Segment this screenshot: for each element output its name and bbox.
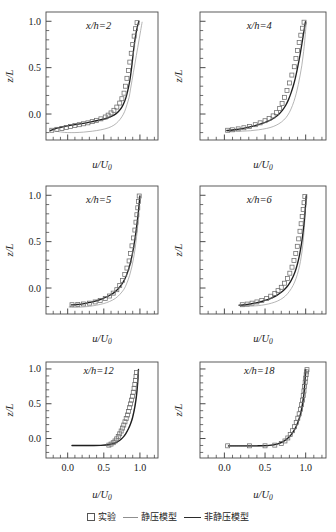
y-tick-label: 0.5 (29, 236, 42, 247)
legend-label-experiment: 实验 (98, 513, 116, 522)
panel-title: x/h=4 (246, 20, 273, 31)
panel-title: x/h=6 (246, 194, 273, 205)
panel-xh2: 0.00.51.0u/U0z/Lx/h=2 (2, 2, 168, 174)
plot-panel-xh4: u/U0z/Lx/h=4 (170, 2, 336, 174)
panel-xh5: 0.00.51.0u/U0z/Lx/h=5 (2, 176, 168, 348)
x-axis-label: u/U0 (92, 489, 112, 502)
x-axis-label: u/U0 (253, 489, 273, 502)
panel-xh4: u/U0z/Lx/h=4 (170, 2, 336, 174)
legend-label-nonhydrostatic: 非静压模型 (204, 513, 249, 522)
y-tick-label: 0.5 (29, 62, 42, 73)
y-tick-label: 1.0 (29, 363, 42, 374)
figure-legend: 实验 静压模型 非静压模型 (0, 505, 336, 529)
y-tick-label: 0.0 (29, 109, 42, 120)
panel-xh6: u/U0z/Lx/h=6 (170, 176, 336, 348)
panel-title: x/h=12 (82, 365, 114, 376)
x-tick-label: 0.0 (61, 462, 74, 473)
x-tick-label: 1.0 (134, 462, 147, 473)
plot-panel-xh18: 0.00.51.0u/U0z/Lx/h=18 (170, 352, 336, 504)
thin-line-icon (123, 517, 138, 518)
y-axis-label: z/L (4, 69, 15, 83)
x-axis-label: u/U0 (253, 159, 273, 172)
velocity-profile-figure: 0.00.51.0u/U0z/Lx/h=180.00.51.00.00.51.0… (0, 0, 336, 532)
y-axis-label: z/L (173, 69, 184, 83)
y-axis-label: z/L (4, 403, 15, 417)
plot-frame (46, 186, 158, 314)
thick-line-icon (184, 517, 201, 518)
panel-title: x/h=2 (85, 20, 112, 31)
y-axis-label: z/L (173, 403, 184, 417)
x-axis-label: u/U0 (92, 333, 112, 346)
panel-title: x/h=5 (85, 194, 111, 205)
x-tick-label: 0.5 (98, 462, 111, 473)
legend-item-hydrostatic: 静压模型 (123, 513, 177, 522)
open-square-icon (87, 513, 95, 521)
y-tick-label: 1.0 (29, 16, 42, 27)
y-tick-label: 0.0 (29, 283, 42, 294)
plot-panel-xh2: 0.00.51.0u/U0z/Lx/h=2 (2, 2, 168, 174)
y-tick-label: 0.5 (29, 398, 42, 409)
y-axis-label: z/L (173, 243, 184, 257)
y-tick-label: 0.0 (29, 433, 42, 444)
plot-panel-xh12: 0.00.51.00.00.51.0u/U0z/Lx/h=12 (2, 352, 168, 504)
panel-title: x/h=18 (243, 365, 275, 376)
plot-panel-xh5: 0.00.51.0u/U0z/Lx/h=5 (2, 176, 168, 348)
x-axis-label: u/U0 (92, 159, 112, 172)
x-axis-label: u/U0 (253, 333, 273, 346)
legend-item-nonhydrostatic: 非静压模型 (184, 513, 249, 522)
x-tick-label: 1.0 (299, 462, 312, 473)
plot-frame (200, 186, 326, 314)
x-tick-label: 0.0 (218, 462, 231, 473)
legend-item-experiment: 实验 (87, 513, 116, 522)
panel-xh18: 0.00.51.0u/U0z/Lx/h=18 (170, 352, 336, 504)
plot-panel-xh6: u/U0z/Lx/h=6 (170, 176, 336, 348)
x-tick-label: 0.5 (259, 462, 272, 473)
y-tick-label: 1.0 (29, 190, 42, 201)
legend-label-hydrostatic: 静压模型 (141, 513, 177, 522)
y-axis-label: z/L (4, 243, 15, 257)
panel-xh12: 0.00.51.00.00.51.0u/U0z/Lx/h=12 (2, 352, 168, 504)
